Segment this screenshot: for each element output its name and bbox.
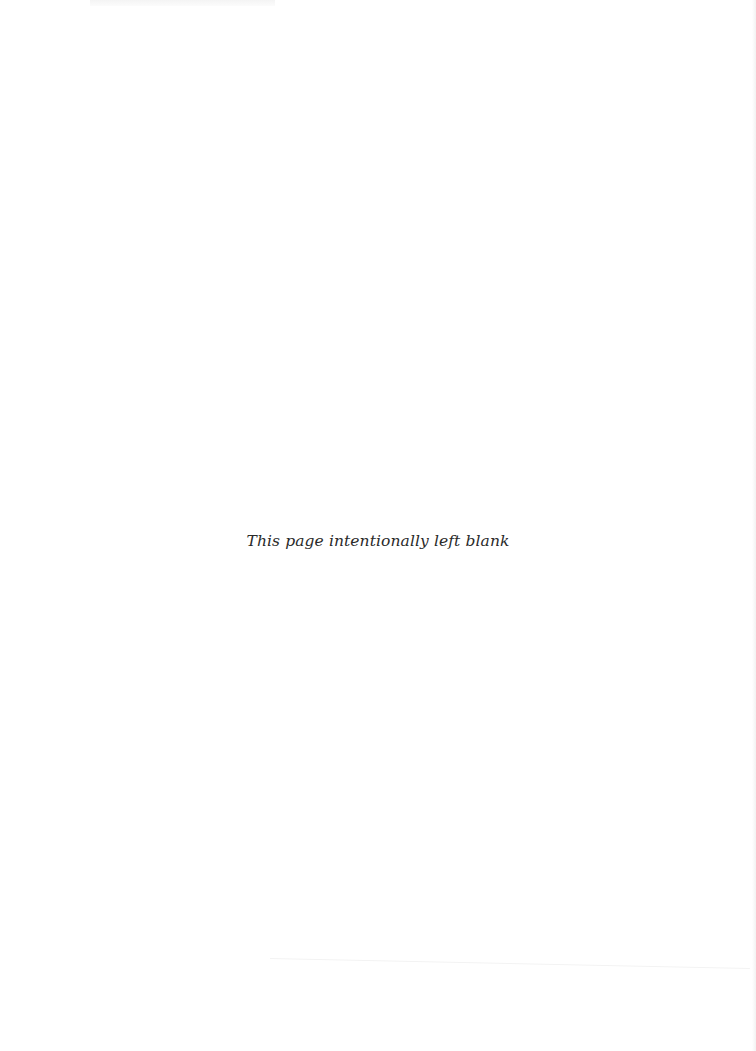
scan-bleed-through [90,0,275,6]
blank-page-notice: This page intentionally left blank [0,532,756,550]
scan-artifact-line [270,958,750,969]
blank-page: This page intentionally left blank [0,0,756,1051]
page-edge-shadow [752,0,756,1051]
